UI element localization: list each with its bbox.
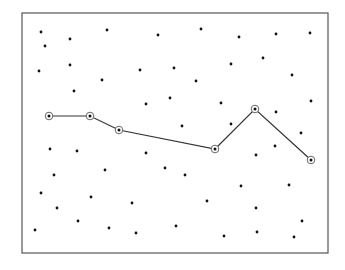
scatter-point bbox=[108, 227, 111, 230]
scatter-point bbox=[262, 57, 265, 60]
scatter-point bbox=[310, 100, 313, 103]
scatter-point bbox=[90, 196, 93, 199]
scatter-point bbox=[275, 33, 278, 36]
scatter-point bbox=[44, 45, 47, 48]
scatter-point bbox=[38, 70, 41, 73]
scatter-point bbox=[301, 220, 304, 223]
path-marker-dot bbox=[118, 129, 121, 132]
scatter-point bbox=[139, 69, 142, 72]
scatter-point bbox=[69, 64, 72, 67]
path-marker-dot bbox=[254, 108, 257, 111]
scatter-point bbox=[69, 38, 72, 41]
scatter-point bbox=[145, 152, 148, 155]
path-marker-dot bbox=[48, 115, 51, 118]
scatter-point bbox=[255, 154, 258, 157]
scatter-point bbox=[293, 236, 296, 239]
scatter-point bbox=[256, 231, 259, 234]
scatter-point bbox=[104, 169, 107, 172]
scatter-point bbox=[73, 90, 76, 93]
scatter-point bbox=[200, 28, 203, 31]
scatter-point bbox=[255, 207, 258, 210]
scatter-point bbox=[101, 79, 104, 82]
scatter-path-diagram bbox=[0, 0, 345, 270]
scatter-point bbox=[40, 192, 43, 195]
scatter-point bbox=[181, 125, 184, 128]
scatter-point bbox=[230, 63, 233, 66]
path-marker-dot bbox=[214, 148, 217, 151]
path-marker-dot bbox=[89, 115, 92, 118]
scatter-point bbox=[173, 67, 176, 70]
scatter-point bbox=[240, 185, 243, 188]
scatter-point bbox=[275, 111, 278, 114]
scatter-point bbox=[169, 97, 172, 100]
scatter-point bbox=[195, 80, 198, 83]
scatter-point bbox=[206, 200, 209, 203]
scatter-point bbox=[309, 32, 312, 35]
scatter-point bbox=[40, 31, 43, 34]
scatter-point bbox=[175, 225, 178, 228]
scatter-point bbox=[274, 145, 277, 148]
scatter-point bbox=[106, 29, 109, 32]
scatter-point bbox=[53, 174, 56, 177]
scatter-point bbox=[76, 150, 79, 153]
scatter-point bbox=[184, 174, 187, 177]
scatter-point bbox=[220, 102, 223, 105]
scatter-point bbox=[49, 148, 52, 151]
scatter-point bbox=[77, 220, 80, 223]
scatter-point bbox=[230, 123, 233, 126]
scatter-point bbox=[238, 36, 241, 39]
scatter-point bbox=[131, 202, 134, 205]
scatter-point bbox=[223, 235, 226, 238]
scatter-point bbox=[164, 167, 167, 170]
scatter-point bbox=[145, 103, 148, 106]
scatter-point bbox=[56, 207, 59, 210]
scatter-point bbox=[300, 132, 303, 135]
scatter-point bbox=[288, 184, 291, 187]
scatter-point bbox=[157, 34, 160, 37]
path-marker-dot bbox=[310, 159, 313, 162]
scatter-point bbox=[34, 229, 37, 232]
scatter-point bbox=[135, 232, 138, 235]
scatter-point bbox=[291, 74, 294, 77]
